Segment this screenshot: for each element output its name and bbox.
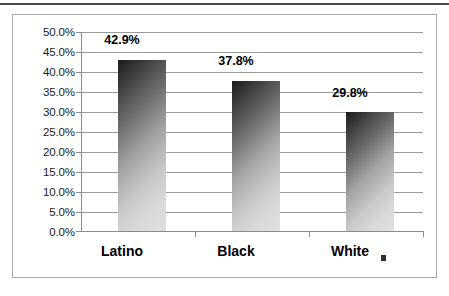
- value-axis-line: [81, 32, 82, 232]
- gridline: [81, 52, 423, 53]
- y-axis-label: 30.0%: [43, 106, 75, 118]
- category-label-white: White: [322, 243, 378, 259]
- bar-black[interactable]: [232, 81, 280, 231]
- axis-tick: [76, 152, 81, 153]
- y-axis-label: 10.0%: [43, 186, 75, 198]
- axis-tick: [76, 52, 81, 53]
- bar-latino[interactable]: [118, 60, 166, 231]
- y-axis-label: 20.0%: [43, 146, 75, 158]
- axis-tick: [76, 72, 81, 73]
- axis-tick: [76, 212, 81, 213]
- category-label-black: Black: [208, 243, 264, 259]
- y-axis-label: 25.0%: [43, 126, 75, 138]
- axis-tick: [76, 92, 81, 93]
- y-axis-label: 0.0%: [49, 226, 75, 238]
- data-label-white: 29.8%: [326, 86, 374, 100]
- bar-white[interactable]: [346, 112, 394, 231]
- category-tick: [309, 232, 310, 237]
- y-axis-label: 15.0%: [43, 166, 75, 178]
- y-axis-label: 5.0%: [49, 206, 75, 218]
- scan-artifact: [381, 255, 386, 261]
- axis-tick: [76, 32, 81, 33]
- category-label-latino: Latino: [94, 243, 150, 259]
- y-axis-label: 45.0%: [43, 46, 75, 58]
- chart-frame: 50.0% 45.0% 40.0% 35.0% 30.0% 25.0% 20.0…: [12, 14, 437, 278]
- axis-tick: [76, 112, 81, 113]
- y-axis-labels: 50.0% 45.0% 40.0% 35.0% 30.0% 25.0% 20.0…: [13, 32, 75, 232]
- data-label-black: 37.8%: [212, 54, 260, 68]
- y-axis-label: 40.0%: [43, 66, 75, 78]
- y-axis-label: 35.0%: [43, 86, 75, 98]
- category-tick: [195, 232, 196, 237]
- axis-tick: [76, 132, 81, 133]
- y-axis-label: 50.0%: [43, 26, 75, 38]
- page-top-rule: [0, 3, 449, 5]
- category-axis-line: [81, 231, 424, 232]
- axis-tick: [76, 192, 81, 193]
- data-label-latino: 42.9%: [98, 33, 146, 47]
- category-tick: [423, 232, 424, 237]
- axis-tick: [76, 172, 81, 173]
